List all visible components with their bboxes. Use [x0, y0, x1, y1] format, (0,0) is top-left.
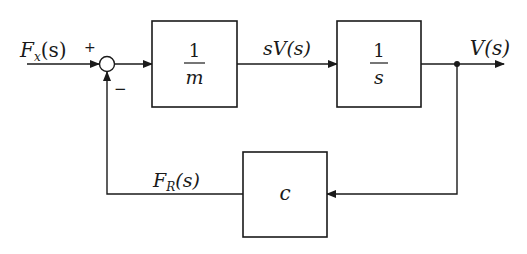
block-mass-numerator: 1 — [189, 40, 200, 61]
minus-sign: − — [114, 80, 127, 98]
block-damping-label: c — [279, 181, 290, 205]
intermediate-signal-label: sV(s) — [263, 37, 311, 59]
block-diagram: Fx(s) + − 1 m sV(s) 1 s V(s) c FR(s) — [0, 0, 527, 254]
feedback-label: FR(s) — [152, 169, 200, 194]
block-mass — [152, 21, 237, 107]
block-integrator-denominator: s — [374, 66, 384, 88]
block-mass-denominator: m — [185, 66, 203, 88]
block-integrator-numerator: 1 — [373, 40, 384, 61]
output-label: V(s) — [470, 36, 510, 60]
input-label: Fx(s) — [19, 38, 67, 64]
block-integrator — [337, 21, 421, 107]
plus-sign: + — [84, 39, 96, 55]
summing-junction — [100, 57, 115, 72]
